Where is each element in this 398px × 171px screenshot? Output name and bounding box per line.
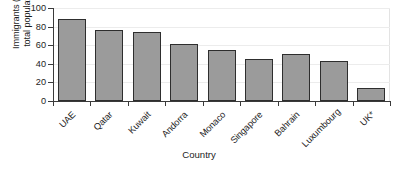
- bar: [95, 30, 123, 101]
- x-axis-tick-mark: [278, 102, 279, 106]
- bar: [357, 88, 385, 101]
- x-axis-tick-mark: [128, 102, 129, 106]
- bar: [133, 32, 161, 101]
- gridline: [53, 27, 390, 28]
- x-axis-tick-label: Monaco: [187, 109, 227, 149]
- y-axis-tick-label: 80: [0, 22, 46, 32]
- x-axis-line: [53, 101, 391, 102]
- x-axis-tick-mark: [353, 102, 354, 106]
- x-axis-tick-label: Kuwait: [113, 109, 153, 149]
- y-axis-title-line-1: Immigrants (% of: [11, 0, 22, 49]
- bar: [245, 59, 273, 101]
- y-axis-line: [53, 8, 54, 102]
- y-axis-tick-label: 100: [0, 3, 46, 13]
- x-axis-tick-mark: [53, 102, 54, 106]
- gridline: [53, 8, 390, 9]
- x-axis-title: Country: [0, 149, 398, 160]
- x-axis-tick-mark: [203, 102, 204, 106]
- bar: [170, 44, 198, 101]
- bar: [208, 50, 236, 101]
- y-axis-tick-label: 20: [0, 77, 46, 87]
- x-axis-tick-label: Qatar: [75, 109, 115, 149]
- y-axis-title-line-2: total population): [22, 0, 33, 47]
- x-axis-tick-label: UK*: [337, 109, 377, 149]
- y-axis-ticks: 020406080100: [0, 0, 46, 171]
- bar: [282, 54, 310, 101]
- plot-right-border: [389, 8, 390, 101]
- x-axis-tick-label: Singapore: [225, 109, 265, 149]
- x-axis-tick-mark: [165, 102, 166, 106]
- x-axis-tick-mark: [315, 102, 316, 106]
- bar: [58, 19, 86, 101]
- x-axis-tick-label: Luxumbourg: [300, 109, 340, 149]
- plot-area: [53, 8, 390, 101]
- x-axis-tick-label: Bahrain: [262, 109, 302, 149]
- y-axis-tick-label: 40: [0, 59, 46, 69]
- x-axis-tick-label: Andorra: [150, 109, 190, 149]
- x-axis-tick-mark: [240, 102, 241, 106]
- y-axis-tick-label: 0: [0, 96, 46, 106]
- x-axis-tick-mark: [90, 102, 91, 106]
- bar-chart: Immigrants (% of total population) 02040…: [0, 0, 398, 171]
- y-axis-tick-label: 60: [0, 40, 46, 50]
- y-axis-title: Immigrants (% of total population): [7, 0, 37, 67]
- x-axis-tick-label: UAE: [38, 109, 78, 149]
- bar: [320, 61, 348, 101]
- x-axis-tick-mark: [390, 102, 391, 106]
